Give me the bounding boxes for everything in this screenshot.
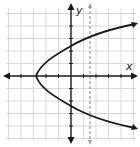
y-axis-bottom-arrow-icon — [68, 137, 75, 144]
y-axis-label: y — [75, 4, 83, 17]
coordinate-graph: y x — [0, 0, 140, 147]
dashed-line-arrow-top-icon — [88, 3, 92, 8]
y-axis — [68, 3, 75, 144]
x-axis-label: x — [125, 60, 133, 73]
curve-lower-arrow-icon — [131, 124, 138, 130]
curve-upper-arrow-icon — [131, 22, 138, 28]
x-axis-right-arrow-icon — [131, 73, 138, 80]
x-axis-left-arrow-icon — [3, 73, 10, 80]
dashed-line-arrow-bottom-icon — [88, 140, 92, 145]
y-axis-top-arrow-icon — [68, 3, 75, 10]
